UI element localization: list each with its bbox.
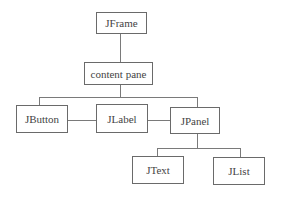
edge-content-pane-bus bbox=[120, 85, 121, 97]
node-jpanel: JPanel bbox=[170, 107, 220, 134]
edge-bus-jtext bbox=[157, 148, 158, 156]
edge-jlabel-jpanel bbox=[148, 120, 170, 121]
node-jbutton: JButton bbox=[16, 105, 68, 133]
edge-jpanel-bus-horizontal bbox=[157, 148, 240, 149]
edge-bus-jbutton bbox=[39, 97, 40, 105]
edge-jbutton-jlabel bbox=[68, 120, 96, 121]
edge-bus-jpanel bbox=[197, 97, 198, 107]
edge-jpanel-bus bbox=[197, 134, 198, 148]
edge-bus-jlist bbox=[240, 148, 241, 157]
node-jframe: JFrame bbox=[96, 12, 147, 34]
node-jtext: JText bbox=[132, 156, 184, 184]
node-jlist: JList bbox=[213, 157, 265, 185]
edge-jframe-content-pane bbox=[120, 34, 121, 62]
node-content-pane: content pane bbox=[84, 62, 153, 85]
edge-bus-horizontal bbox=[39, 97, 197, 98]
node-jlabel: JLabel bbox=[96, 104, 148, 133]
